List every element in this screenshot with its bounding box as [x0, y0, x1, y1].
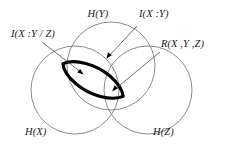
label-entropy-z: H(Z) — [152, 126, 174, 138]
lens-outline-x-and-y — [63, 62, 123, 98]
leader-line-mutual-information — [108, 26, 137, 57]
label-conditional-mutual-information: I(X :Y / Z) — [10, 28, 55, 40]
label-interaction-information: R(X ,Y ,Z) — [160, 38, 204, 50]
venn-diagram-canvas: H(Y) I(X :Y) I(X :Y / Z) R(X ,Y ,Z) H(X)… — [0, 0, 226, 145]
annotation-leaders-group — [42, 26, 160, 91]
label-entropy-y: H(Y) — [87, 8, 109, 20]
venn-diagram-figure: H(Y) I(X :Y) I(X :Y / Z) R(X ,Y ,Z) H(X)… — [0, 0, 226, 145]
leader-line-interaction-information — [114, 52, 160, 90]
leader-line-conditional-mutual-information — [42, 42, 82, 73]
highlight-region-group — [63, 62, 123, 98]
label-entropy-x: H(X) — [24, 126, 47, 138]
circle-entropy-x — [31, 46, 119, 134]
label-mutual-information: I(X :Y) — [138, 8, 169, 20]
